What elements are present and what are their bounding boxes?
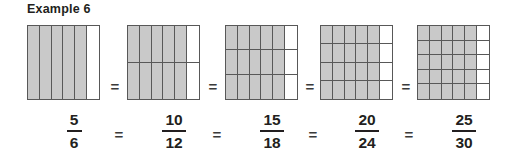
fraction-denominator: 6 bbox=[45, 133, 103, 152]
shaded-cell bbox=[442, 84, 454, 99]
shaded-cell bbox=[345, 26, 357, 44]
shaded-cell bbox=[356, 26, 368, 44]
shaded-cell bbox=[418, 26, 430, 41]
fraction-5-over-6: 56 bbox=[45, 110, 103, 152]
shaded-cell bbox=[356, 63, 368, 81]
unshaded-cell bbox=[285, 75, 297, 99]
shaded-cell bbox=[140, 63, 152, 100]
fraction-model-5-6 bbox=[27, 25, 100, 100]
shaded-cell bbox=[418, 84, 430, 99]
shaded-cell bbox=[465, 55, 477, 70]
shaded-cell bbox=[345, 81, 357, 99]
shaded-cell bbox=[152, 63, 164, 100]
shaded-cell bbox=[345, 63, 357, 81]
fraction-bar bbox=[67, 130, 82, 132]
equation-equals-sign-2: = bbox=[206, 127, 228, 143]
shaded-cell bbox=[321, 26, 333, 44]
shaded-cell bbox=[28, 26, 40, 99]
fraction-model-10-12 bbox=[127, 25, 200, 100]
shaded-cell bbox=[238, 75, 250, 99]
shaded-cell bbox=[52, 26, 64, 99]
fraction-25-over-30: 2530 bbox=[435, 110, 493, 152]
shaded-cell bbox=[442, 26, 454, 41]
unshaded-cell bbox=[187, 26, 199, 63]
shaded-cell bbox=[453, 26, 465, 41]
fraction-bar bbox=[260, 130, 284, 132]
shaded-cell bbox=[465, 26, 477, 41]
unshaded-cell bbox=[477, 70, 489, 85]
shaded-cell bbox=[453, 70, 465, 85]
fraction-model-25-30 bbox=[417, 25, 490, 100]
shaded-cell bbox=[226, 50, 238, 74]
unshaded-cell bbox=[477, 41, 489, 56]
shaded-cell bbox=[333, 63, 345, 81]
fraction-10-over-12: 1012 bbox=[145, 110, 203, 152]
equivalent-fractions-diagram: ==== bbox=[0, 25, 513, 101]
shaded-cell bbox=[453, 41, 465, 56]
shaded-cell bbox=[226, 75, 238, 99]
fraction-bar bbox=[162, 130, 186, 132]
unshaded-cell bbox=[380, 26, 392, 44]
shaded-cell bbox=[333, 81, 345, 99]
fraction-denominator: 12 bbox=[145, 133, 203, 152]
shaded-cell bbox=[128, 26, 140, 63]
fraction-20-over-24: 2024 bbox=[338, 110, 396, 152]
shaded-cell bbox=[418, 55, 430, 70]
shaded-cell bbox=[238, 50, 250, 74]
fraction-numerator: 5 bbox=[45, 110, 103, 129]
unshaded-cell bbox=[477, 55, 489, 70]
shaded-cell bbox=[226, 26, 238, 50]
shaded-cell bbox=[442, 55, 454, 70]
shaded-cell bbox=[345, 44, 357, 62]
shaded-cell bbox=[321, 44, 333, 62]
shaded-cell bbox=[368, 63, 380, 81]
shaded-cell bbox=[261, 26, 273, 50]
shaded-cell bbox=[465, 41, 477, 56]
fraction-model-15-18 bbox=[225, 25, 298, 100]
fraction-model-20-24 bbox=[320, 25, 393, 100]
shaded-cell bbox=[152, 26, 164, 63]
diagram-equals-sign-4: = bbox=[395, 79, 417, 95]
shaded-cell bbox=[453, 84, 465, 99]
shaded-cell bbox=[63, 26, 75, 99]
unshaded-cell bbox=[477, 26, 489, 41]
unshaded-cell bbox=[285, 50, 297, 74]
shaded-cell bbox=[368, 26, 380, 44]
shaded-cell bbox=[356, 81, 368, 99]
shaded-cell bbox=[418, 41, 430, 56]
unshaded-cell bbox=[380, 81, 392, 99]
shaded-cell bbox=[273, 26, 285, 50]
shaded-cell bbox=[430, 70, 442, 85]
shaded-cell bbox=[430, 26, 442, 41]
equation-equals-sign-3: = bbox=[302, 127, 324, 143]
shaded-cell bbox=[333, 26, 345, 44]
fraction-numerator: 25 bbox=[435, 110, 493, 129]
shaded-cell bbox=[430, 84, 442, 99]
shaded-cell bbox=[321, 63, 333, 81]
shaded-cell bbox=[40, 26, 52, 99]
shaded-cell bbox=[368, 81, 380, 99]
shaded-cell bbox=[333, 44, 345, 62]
fraction-15-over-18: 1518 bbox=[243, 110, 301, 152]
shaded-cell bbox=[453, 55, 465, 70]
fraction-denominator: 18 bbox=[243, 133, 301, 152]
shaded-cell bbox=[356, 44, 368, 62]
unshaded-cell bbox=[187, 63, 199, 100]
shaded-cell bbox=[368, 44, 380, 62]
equation-equals-sign-1: = bbox=[108, 127, 130, 143]
unshaded-cell bbox=[87, 26, 99, 99]
shaded-cell bbox=[175, 63, 187, 100]
page-title: Example 6 bbox=[27, 2, 91, 16]
shaded-cell bbox=[321, 81, 333, 99]
diagram-equals-sign-2: = bbox=[202, 79, 224, 95]
shaded-cell bbox=[250, 50, 262, 74]
shaded-cell bbox=[238, 26, 250, 50]
shaded-cell bbox=[418, 70, 430, 85]
shaded-cell bbox=[140, 26, 152, 63]
shaded-cell bbox=[465, 70, 477, 85]
unshaded-cell bbox=[285, 26, 297, 50]
shaded-cell bbox=[261, 75, 273, 99]
shaded-cell bbox=[163, 26, 175, 63]
unshaded-cell bbox=[380, 44, 392, 62]
fraction-denominator: 30 bbox=[435, 133, 493, 152]
